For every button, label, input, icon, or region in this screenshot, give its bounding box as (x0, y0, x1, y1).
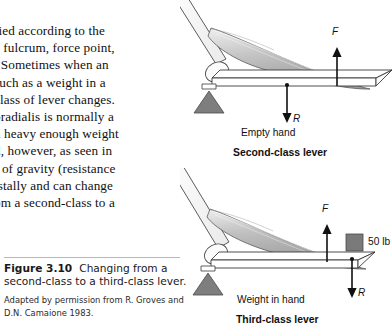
figure-caption: Figure 3.10Changing from a second-class … (4, 262, 188, 320)
body-text-line: e fulcrum, force point, (0, 39, 182, 56)
forearm-lever-plate (202, 70, 392, 89)
humerus-bone (180, 168, 229, 248)
condition-label: Weight in hand (237, 294, 305, 305)
diagram-title: Second-class lever (233, 147, 327, 158)
body-text-line: n heavy enough weight (0, 125, 182, 142)
figure-page: fied according to the e fulcrum, force p… (0, 0, 392, 336)
caption-divider (4, 257, 180, 258)
body-text-line: istally and can change (0, 177, 182, 194)
fulcrum (193, 273, 223, 295)
body-text-line: . Sometimes when an (0, 56, 182, 73)
body-text-line: r of gravity (resistance (0, 160, 182, 177)
body-text-line: class of lever changes. (0, 91, 182, 108)
weight-block (346, 234, 363, 251)
body-text-line: fied according to the (0, 22, 182, 39)
weight-value-label: 50 lb (368, 236, 390, 247)
force-label: F (332, 26, 338, 37)
resistance-label: R (293, 113, 300, 124)
caption-credit: Adapted by permission from R. Groves and… (4, 294, 188, 320)
force-label: F (322, 203, 328, 214)
body-text-line: om a second-class to a (0, 194, 182, 211)
body-text-line: such as a weight in a (0, 74, 182, 91)
third-class-lever-drawing (180, 168, 392, 336)
condition-label: Empty hand (241, 127, 295, 138)
forearm-lever-plate (201, 252, 375, 271)
body-text-column: fied according to the e fulcrum, force p… (0, 22, 182, 211)
resistance-arrow (282, 83, 291, 123)
diagram-third-class-lever: F 50 lb R Weight in hand Third-class lev… (180, 168, 392, 336)
body-text-line: d, however, as seen in (0, 142, 182, 159)
diagram-title: Third-class lever (236, 314, 319, 325)
second-class-lever-drawing (180, 0, 392, 170)
caption-main-line: Figure 3.10Changing from a second-class … (4, 262, 188, 289)
fulcrum (194, 91, 224, 113)
diagram-second-class-lever: F R Empty hand Second-class lever (180, 0, 392, 170)
resistance-label: R (358, 287, 365, 298)
body-text-line: oradialis is normally a (0, 108, 182, 125)
figure-number: Figure 3.10 (4, 262, 72, 274)
